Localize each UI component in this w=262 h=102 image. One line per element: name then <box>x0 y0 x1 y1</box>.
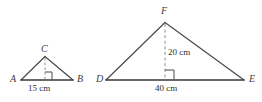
vertex-label-d: D <box>96 74 103 84</box>
vertex-label-f: F <box>161 6 167 16</box>
large-triangle-side-df <box>106 23 165 81</box>
geometry-figure: A B C 15 cm D E F 20 cm 40 cm <box>0 0 262 102</box>
small-triangle-base-measure: 15 cm <box>28 84 50 93</box>
vertex-label-e: E <box>249 74 255 84</box>
large-triangle-height-measure: 20 cm <box>168 48 190 57</box>
small-triangle-group <box>21 57 73 81</box>
small-triangle-right-angle-marker <box>45 72 52 80</box>
vertex-label-b: B <box>77 74 83 84</box>
small-triangle-side-ac <box>21 57 45 81</box>
vertex-label-c: C <box>41 44 48 54</box>
vertex-label-a: A <box>10 74 16 84</box>
small-triangle-side-cb <box>45 57 73 81</box>
large-triangle-base-measure: 40 cm <box>155 84 177 93</box>
large-triangle-right-angle-marker <box>165 70 174 80</box>
